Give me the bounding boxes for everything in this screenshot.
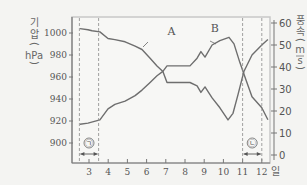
y-left-tick-label: 980 <box>50 50 67 60</box>
x-tick-label: 7 <box>163 167 169 177</box>
y-right-title-part: s <box>297 55 302 66</box>
y-right-tick-label: 10 <box>279 128 292 139</box>
y-right-tick-label: 20 <box>279 106 292 117</box>
y-right-title-part: m <box>295 44 305 55</box>
x-unit-label: 일 <box>271 166 280 177</box>
y-right-title-part: 속 <box>296 26 305 37</box>
y-left-tick-label: 920 <box>50 116 67 126</box>
series-label-a: A <box>167 25 177 38</box>
x-tick-label: 11 <box>237 167 248 177</box>
interval-label: ㉠ <box>85 139 93 148</box>
y-left-tick-label: 900 <box>50 138 67 148</box>
y-right-tick-label: 50 <box>279 40 292 51</box>
y-left-tick-label: 940 <box>50 94 67 104</box>
y-left-tick-label: 1000 <box>44 28 67 38</box>
y-right-tick-label: 60 <box>279 18 292 29</box>
y-right-tick-label: 40 <box>279 62 292 73</box>
y-left-title-part: 압 <box>30 28 39 40</box>
y-right-title-part: ( <box>295 38 306 42</box>
x-tick-label: 9 <box>201 167 207 177</box>
y-left-tick-label: 960 <box>50 72 67 82</box>
y-right-tick-label: 30 <box>279 84 292 95</box>
x-tick-label: 4 <box>105 167 111 177</box>
interval-label: ㉡ <box>248 139 256 148</box>
x-tick-label: 5 <box>125 167 131 177</box>
series-label-b: B <box>211 22 219 35</box>
y-left-title-part: ( <box>29 42 40 46</box>
y-left-title-part: hPa <box>25 50 43 61</box>
x-tick-label: 12 <box>256 167 267 177</box>
y-right-tick-label: 0 <box>279 150 285 161</box>
x-tick-label: 6 <box>144 167 150 177</box>
x-tick-label: 10 <box>218 167 230 177</box>
y-left-title-part: ) <box>29 61 40 65</box>
plot-area <box>72 17 270 163</box>
y-right-title-part: 풍 <box>296 15 305 26</box>
x-tick-label: 8 <box>182 167 188 177</box>
x-tick-label: 3 <box>86 167 92 177</box>
y-left-title-part: 기 <box>30 17 39 28</box>
chart: 9009209409609801000010203040506034567891… <box>0 0 307 185</box>
y-right-title-part: ) <box>295 66 306 70</box>
